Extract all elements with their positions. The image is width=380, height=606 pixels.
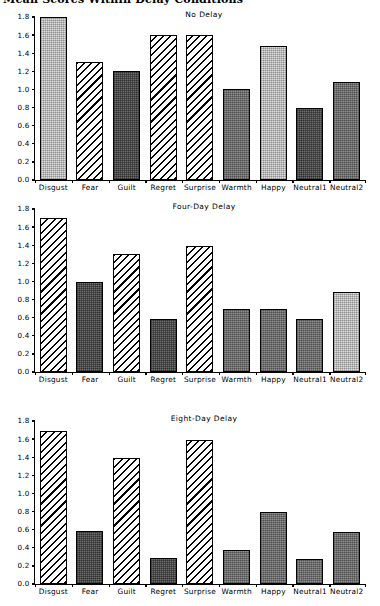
x-axis-label: Disgust	[35, 376, 72, 383]
y-tick-label: 1.8	[17, 417, 29, 424]
y-tick-label: 0.8	[17, 104, 29, 111]
bar	[76, 531, 103, 584]
y-tick-mark	[32, 420, 35, 421]
bar	[113, 71, 140, 180]
y-tick-mark	[32, 457, 35, 458]
y-tick-mark	[32, 34, 35, 35]
bar	[40, 218, 67, 372]
bar	[333, 82, 360, 180]
x-axis-label: Neutral2	[328, 376, 365, 383]
y-tick-mark	[32, 179, 35, 180]
y-tick-mark	[32, 371, 35, 372]
y-tick-label: 0.0	[17, 580, 29, 587]
x-axis-label: Surprise	[182, 376, 219, 383]
bar	[333, 532, 360, 584]
x-axis-label: Regret	[145, 588, 182, 595]
x-axis-labels: DisgustFearGuiltRegretSurpriseWarmthHapp…	[35, 584, 365, 595]
figure-main-title: Mean Scores Within Delay Conditions	[3, 0, 243, 5]
bar	[260, 309, 287, 372]
y-tick-mark	[32, 245, 35, 246]
bar	[260, 46, 287, 180]
y-tick-label: 1.8	[17, 13, 29, 20]
y-tick-mark	[32, 547, 35, 548]
x-axis-label: Neutral2	[328, 588, 365, 595]
y-tick-label: 1.8	[17, 205, 29, 212]
plot-area: DisgustFearGuiltRegretSurpriseWarmthHapp…	[34, 422, 365, 585]
y-tick-mark	[32, 317, 35, 318]
y-tick-label: 1.6	[17, 436, 29, 443]
y-tick-label: 0.0	[17, 176, 29, 183]
bar	[296, 108, 323, 180]
figure-page: Mean Scores Within Delay Conditions No D…	[0, 0, 380, 606]
x-axis-label: Regret	[145, 184, 182, 191]
bar	[76, 62, 103, 180]
y-tick-mark	[32, 281, 35, 282]
bar-group	[35, 18, 365, 180]
x-axis-label: Surprise	[182, 184, 219, 191]
y-tick-label: 0.2	[17, 350, 29, 357]
bar	[333, 292, 360, 372]
y-tick-label: 1.6	[17, 224, 29, 231]
y-tick-label: 1.0	[17, 86, 29, 93]
bar	[150, 35, 177, 180]
y-tick-mark	[32, 353, 35, 354]
bar	[296, 319, 323, 372]
bar	[223, 89, 250, 180]
bar	[186, 246, 213, 372]
x-axis-label: Neutral2	[328, 184, 365, 191]
bar	[296, 559, 323, 584]
x-axis-label: Guilt	[108, 588, 145, 595]
x-axis-label: Fear	[72, 588, 109, 595]
y-tick-label: 0.6	[17, 314, 29, 321]
y-tick-label: 0.4	[17, 544, 29, 551]
y-tick-mark	[32, 107, 35, 108]
y-tick-label: 1.4	[17, 50, 29, 57]
y-tick-label: 1.6	[17, 32, 29, 39]
bar	[223, 550, 250, 584]
bar	[113, 254, 140, 372]
x-axis-label: Fear	[72, 184, 109, 191]
y-tick-mark	[32, 125, 35, 126]
x-axis-labels: DisgustFearGuiltRegretSurpriseWarmthHapp…	[35, 372, 365, 383]
y-tick-mark	[32, 565, 35, 566]
y-tick-mark	[32, 71, 35, 72]
y-tick-mark	[32, 335, 35, 336]
bar-group	[35, 210, 365, 372]
y-tick-label: 0.2	[17, 158, 29, 165]
bar	[40, 431, 67, 584]
x-axis-label: Surprise	[182, 588, 219, 595]
x-axis-label: Warmth	[218, 376, 255, 383]
bar	[150, 319, 177, 372]
y-tick-mark	[32, 53, 35, 54]
bar	[150, 558, 177, 584]
y-tick-label: 0.4	[17, 140, 29, 147]
x-axis-label: Guilt	[108, 376, 145, 383]
x-axis-label: Warmth	[218, 588, 255, 595]
y-tick-mark	[32, 529, 35, 530]
y-tick-label: 1.0	[17, 278, 29, 285]
bar	[186, 35, 213, 180]
y-tick-mark	[32, 226, 35, 227]
bar	[186, 440, 213, 584]
x-axis-label: Neutral1	[292, 376, 329, 383]
y-tick-mark	[32, 89, 35, 90]
plot-area: DisgustFearGuiltRegretSurpriseWarmthHapp…	[34, 18, 365, 181]
y-tick-label: 1.4	[17, 454, 29, 461]
x-axis-label: Guilt	[108, 184, 145, 191]
y-tick-label: 1.0	[17, 490, 29, 497]
bar-group	[35, 422, 365, 584]
y-tick-label: 1.2	[17, 260, 29, 267]
y-tick-label: 1.4	[17, 242, 29, 249]
bar	[40, 17, 67, 180]
x-axis-label: Neutral1	[292, 588, 329, 595]
y-tick-label: 0.4	[17, 332, 29, 339]
x-axis-label: Warmth	[218, 184, 255, 191]
x-axis-label: Disgust	[35, 184, 72, 191]
y-tick-label: 0.0	[17, 368, 29, 375]
y-tick-label: 0.6	[17, 122, 29, 129]
plot-area: DisgustFearGuiltRegretSurpriseWarmthHapp…	[34, 210, 365, 373]
y-tick-mark	[32, 143, 35, 144]
y-tick-mark	[32, 161, 35, 162]
x-axis-label: Neutral1	[292, 184, 329, 191]
y-tick-label: 1.2	[17, 472, 29, 479]
